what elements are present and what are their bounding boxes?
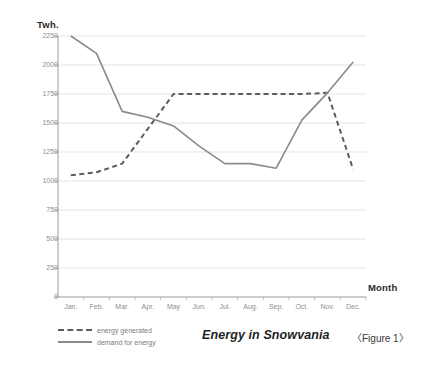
x-axis-tick-labels: Jan.Feb.Mar.Apr.MayJun.Jul.Aug.Sep.Oct.N… bbox=[0, 0, 435, 320]
legend-label: demand for energy bbox=[97, 339, 156, 346]
figure-caption: 〈Figure 1〉 bbox=[352, 330, 409, 345]
x-tick-label: Jan. bbox=[64, 303, 77, 310]
x-tick-label: Nov. bbox=[321, 303, 335, 310]
chart-legend: energy generated demand for energy bbox=[58, 324, 156, 348]
legend-item-demand-for-energy: demand for energy bbox=[58, 336, 156, 348]
x-tick-label: Oct. bbox=[295, 303, 308, 310]
legend-label: energy generated bbox=[97, 327, 152, 334]
x-tick-label: Feb. bbox=[89, 303, 103, 310]
x-axis-title: Month bbox=[368, 282, 398, 293]
x-tick-label: Aug. bbox=[243, 303, 257, 310]
chart-title: Energy in Snowvania bbox=[202, 328, 330, 342]
legend-item-energy-generated: energy generated bbox=[58, 324, 156, 336]
x-tick-label: Mar. bbox=[115, 303, 129, 310]
x-tick-label: Dec. bbox=[346, 303, 360, 310]
x-tick-label: Jul. bbox=[219, 303, 230, 310]
x-tick-label: May bbox=[167, 303, 180, 310]
x-tick-label: Jun. bbox=[193, 303, 206, 310]
x-tick-label: Sep. bbox=[269, 303, 283, 310]
x-tick-label: Apr. bbox=[142, 303, 154, 310]
figure-container: Twh. 0250500750100012501500175020002250 … bbox=[0, 0, 435, 366]
